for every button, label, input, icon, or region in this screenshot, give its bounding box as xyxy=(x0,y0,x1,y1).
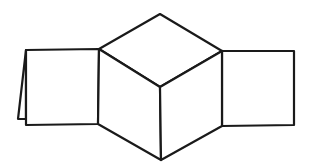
left-square-face xyxy=(26,49,99,125)
cube-net-diagram xyxy=(0,0,310,166)
left-fold-flap xyxy=(18,50,26,119)
right-square-face xyxy=(222,51,294,126)
